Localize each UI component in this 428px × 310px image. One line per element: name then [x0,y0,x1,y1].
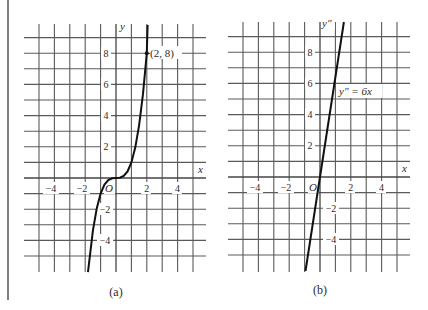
svg-text:2: 2 [308,140,313,151]
svg-text:8: 8 [104,48,109,59]
svg-text:−2: −2 [100,204,111,215]
svg-text:4: 4 [379,182,384,193]
panel-b-caption: (b) [313,283,327,297]
svg-text:−4: −4 [250,182,261,193]
svg-text:4: 4 [308,109,313,120]
panel-b-origin-label: O [309,181,317,193]
svg-text:−2: −2 [281,182,292,193]
figure: 8 6 4 2 −2 −4 −4 −2 2 4 y x O [0,0,428,310]
panel-a-point-label: (2, 8) [150,47,174,60]
panel-a-y-label: y [119,20,125,32]
svg-text:−4: −4 [326,234,337,245]
svg-text:−2: −2 [77,183,88,194]
panel-b-x-label: x [401,162,407,174]
panel-a-caption: (a) [109,285,122,299]
svg-text:−4: −4 [46,183,57,194]
svg-text:6: 6 [104,79,109,90]
panel-b-equation-label: y″ = 6x [338,85,372,97]
panel-a: 8 6 4 2 −2 −4 −4 −2 2 4 y x O [24,20,206,299]
svg-text:8: 8 [308,47,313,58]
panel-b-grid [228,22,410,272]
svg-text:2: 2 [104,141,109,152]
svg-text:4: 4 [175,183,180,194]
svg-text:2: 2 [348,182,353,193]
panel-a-cubic-curve [88,25,148,272]
panel-a-x-label: x [197,163,203,175]
panel-a-grid [24,24,206,272]
svg-text:−2: −2 [326,203,337,214]
svg-text:−4: −4 [100,235,111,246]
panel-b-y-label: y″ [321,17,332,29]
panel-b: 8 6 4 2 −2 −4 −4 −2 2 4 y″ x O [228,17,410,297]
svg-text:6: 6 [308,78,313,89]
panel-a-point-marker [145,51,149,55]
svg-text:2: 2 [144,183,149,194]
svg-text:4: 4 [104,110,109,121]
